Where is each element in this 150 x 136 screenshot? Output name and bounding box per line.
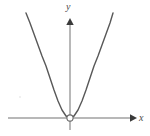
parabola-plot-canvas bbox=[0, 0, 150, 136]
vertex-open-circle-marker bbox=[67, 115, 73, 121]
y-axis-label: y bbox=[66, 2, 70, 12]
x-axis-label: x bbox=[139, 113, 143, 123]
parabola-figure: y x bbox=[0, 0, 150, 136]
x-axis-arrowhead-icon bbox=[130, 114, 137, 122]
y-axis-arrowhead-icon bbox=[66, 18, 73, 25]
